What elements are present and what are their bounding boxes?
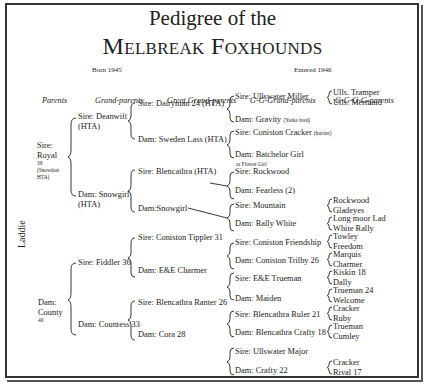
ggp-8: Dam: Cora 28 <box>138 330 185 340</box>
ggp-3: Sire: Blencathra (HTA) <box>138 167 216 177</box>
gggp-8: Dam: Rally White <box>235 219 296 229</box>
ggp-7: Sire: Blencathra Ranter 26 <box>138 298 227 308</box>
gggp-5: Sire: Rockwood <box>235 167 289 177</box>
gggp-12: Dam: Maiden <box>235 294 281 304</box>
g4-pair-1: Ulls. TramperUlls. Mermaid <box>333 88 382 107</box>
g4-pair-6: Kiskin 18Dally <box>333 268 366 287</box>
gggp-15: Sire: Ullswater Major <box>235 347 308 357</box>
gggp-9: Sire: Coniston Friendship <box>235 238 321 248</box>
grandparent-sire-dam: Dam: Snowgirl (HTA) <box>78 190 129 209</box>
gggp-2: Dam: Gravity (Yorks bred) <box>235 115 310 126</box>
g4-pair-2: RockwoodGladeyes <box>333 196 369 215</box>
gggp-14: Dam: Blencathra Crafty 18 <box>235 328 326 338</box>
gggp-10: Dam: Coniston Trilby 26 <box>235 256 319 266</box>
ggp-6: Dam: E&E Charmer <box>138 266 207 276</box>
grandparent-dam-dam: Dam: Countess 33 <box>78 320 140 330</box>
gggp-13: Sire: Blencathra Ruler 21 <box>235 310 320 320</box>
g4-pair-4: TowleyFreedom <box>333 232 363 251</box>
g4-pair-8: CrackerRuby <box>333 304 360 323</box>
ggp-1: Sire: Dairyman 24 (HTA) <box>138 99 224 109</box>
gggp-4: Dam: Batchelor Girl <box>235 150 304 160</box>
g4-pair-7: Trueman 24Welcome <box>333 286 373 305</box>
gggp-3: Sire: Coniston Cracker (harrier) <box>235 128 332 139</box>
ggp-4: Dam:Snowgirl <box>138 204 187 214</box>
gggp-6: Dam: Fearless (2) <box>235 186 295 196</box>
gggp-1: Sire: Ullswater Miller <box>235 92 309 102</box>
g4-pair-10: CrackerRival 17 <box>333 358 362 377</box>
g4-pair-3: Long moor LadWhite Rally <box>333 214 386 233</box>
gggp-11: Sire: E&E Trueman <box>235 274 302 284</box>
g4-pair-9: TruemanCumley <box>333 322 363 341</box>
ggp-2: Dam: Sweden Lass (HTA) <box>138 135 227 145</box>
grandparent-dam-sire: Sire: Fiddler 36 <box>78 258 131 268</box>
gggp-7: Sire: Mountain <box>235 201 285 211</box>
grandparent-sire-sire: Sire: Deanwift (HTA) <box>78 112 127 131</box>
ggp-5: Sire: Coniston Tippler 31 <box>138 233 223 243</box>
g4-pair-5: MarquisCharmer <box>333 250 362 269</box>
gggp-16: Dam: Crafty 22 <box>235 366 288 376</box>
